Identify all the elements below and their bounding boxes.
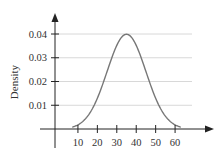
y-tick-label: 0.03 [29, 52, 47, 63]
axes [40, 13, 214, 148]
x-tick-label: 40 [131, 137, 142, 148]
y-axis-arrow-icon [52, 13, 59, 22]
x-tick-label: 50 [150, 137, 161, 148]
density-chart: 0.010.020.030.04 102030405060 Density [0, 0, 220, 158]
y-axis-label: Density [8, 64, 20, 99]
y-tick-label: 0.04 [29, 29, 48, 40]
gridlines [55, 34, 192, 105]
density-curve-path [72, 34, 181, 127]
x-tick-label: 10 [73, 137, 84, 148]
y-tick-label: 0.01 [29, 100, 47, 111]
x-ticks: 102030405060 [73, 125, 181, 148]
x-tick-label: 30 [112, 137, 123, 148]
density-curve [72, 34, 181, 127]
x-tick-label: 20 [92, 137, 103, 148]
y-tick-label: 0.02 [29, 76, 47, 87]
x-tick-label: 60 [170, 137, 181, 148]
x-axis-arrow-icon [205, 126, 214, 133]
y-ticks: 0.010.020.030.04 [29, 29, 59, 111]
